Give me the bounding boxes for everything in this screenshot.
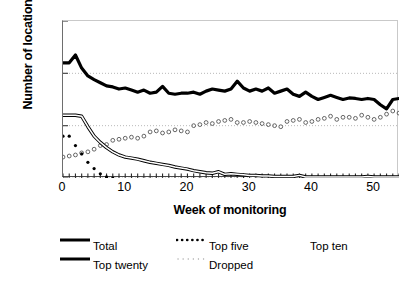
legend-label-top-five: Top five — [209, 240, 249, 252]
x-tick-label-50: 50 — [358, 180, 388, 194]
chart-canvas — [63, 21, 399, 178]
y-axis-title: Number of locations — [21, 0, 35, 131]
legend-key-bold-dotted-top-five — [176, 235, 206, 245]
chart-legend: Total Top twenty Top five Dropped Top te… — [60, 238, 390, 278]
legend-label-top-ten: Top ten — [310, 240, 348, 252]
legend-label-top-twenty: Top twenty — [93, 259, 148, 271]
legend-key-thick-line-top-twenty — [60, 254, 90, 264]
plot-area — [62, 20, 398, 177]
x-tick-label-40: 40 — [296, 180, 326, 194]
series-top-twenty — [63, 115, 399, 177]
chart-figure: Number of locations 3 2 1 0 0 10 20 30 4… — [0, 0, 405, 285]
y-tick-marks — [63, 21, 68, 178]
legend-label-total: Total — [93, 240, 117, 252]
x-tick-label-30: 30 — [234, 180, 264, 194]
series-total — [63, 55, 399, 109]
x-tick-label-10: 10 — [109, 180, 139, 194]
x-tick-label-0: 0 — [47, 180, 77, 194]
legend-key-thick-line-total — [60, 235, 90, 245]
x-tick-label-20: 20 — [171, 180, 201, 194]
legend-label-dropped: Dropped — [209, 259, 253, 271]
x-axis-title: Week of monitoring — [62, 203, 398, 217]
legend-key-fine-dotted-dropped — [176, 254, 206, 264]
